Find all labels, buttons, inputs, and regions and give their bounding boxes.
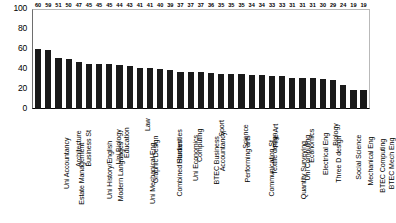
category-label-slot: Textile design (247, 110, 257, 223)
bar-value-label: 30 (320, 3, 326, 9)
category-label-slot: Social Science (328, 110, 338, 223)
bar-item[interactable]: 47 (74, 9, 84, 109)
bar-value-label: 29 (330, 3, 336, 9)
bar-rect (157, 69, 163, 109)
bar-item[interactable]: 35 (226, 9, 236, 109)
bar-value-label: 51 (55, 3, 61, 9)
category-label-slot: Mechanical Eng (338, 110, 348, 223)
bar-rect (96, 64, 102, 109)
bar-value-label: 24 (340, 3, 346, 9)
y-axis-tick: 20 (18, 84, 27, 93)
bar-rect (289, 78, 295, 109)
bar-rect (45, 50, 51, 109)
bar-item[interactable]: 19 (359, 9, 369, 109)
bar-item[interactable]: 31 (308, 9, 318, 109)
bar-item[interactable]: 34 (247, 9, 257, 109)
bar-rect (106, 64, 112, 109)
bar-item[interactable]: 33 (267, 9, 277, 109)
bar-item[interactable]: 59 (43, 9, 53, 109)
bar-item[interactable]: 45 (94, 9, 104, 109)
y-axis-tick: 100 (13, 4, 27, 13)
bar-item[interactable]: 44 (114, 9, 124, 109)
category-label-slot: Science (226, 110, 236, 223)
bar-item[interactable]: 30 (318, 9, 328, 109)
category-label-slot: Electrical Eng (297, 110, 307, 223)
bar-item[interactable]: 37 (175, 9, 185, 109)
bar-item[interactable]: 31 (297, 9, 307, 109)
bar-item[interactable]: 50 (64, 9, 74, 109)
bar-value-label: 40 (157, 3, 163, 9)
bar-item[interactable]: 33 (277, 9, 287, 109)
bar-item[interactable]: 60 (33, 9, 43, 109)
bar-item[interactable]: 43 (125, 9, 135, 109)
bar-value-label: 35 (238, 3, 244, 9)
y-axis: 100806040200 (0, 8, 30, 110)
bar-rect (218, 74, 224, 109)
x-axis-category-label: BTEC Computing (380, 139, 387, 193)
bar-value-label: 35 (218, 3, 224, 9)
category-label-slot: Estate Management (43, 110, 53, 223)
bar-item[interactable]: 24 (338, 9, 348, 109)
bar-item[interactable]: 35 (216, 9, 226, 109)
bar-rect (360, 90, 366, 109)
bar-rect (228, 74, 234, 109)
category-label-slot: Combined Studies (145, 110, 155, 223)
bar-item[interactable]: 51 (53, 9, 63, 109)
bar-item[interactable]: 35 (236, 9, 246, 109)
category-label-slot: Uni Economics (165, 110, 175, 223)
category-labels-container: Uni AccountancyEstate ManagementArchitec… (33, 110, 369, 223)
category-label-slot: Quantity Surveying (267, 110, 277, 223)
bar-item[interactable]: 40 (155, 9, 165, 109)
bar-item[interactable]: 19 (348, 9, 358, 109)
bar-rect (269, 76, 275, 109)
bar-rect (238, 74, 244, 109)
bar-rect (208, 73, 214, 109)
bar-rect (249, 75, 255, 109)
bar-rect (310, 78, 316, 109)
bar-item[interactable]: 41 (135, 9, 145, 109)
bar-value-label: 31 (289, 3, 295, 9)
category-label-slot: Law (135, 110, 145, 223)
category-label-slot: Modern Languages (84, 110, 94, 223)
bar-item[interactable]: 34 (257, 9, 267, 109)
bar-rect (320, 79, 326, 109)
category-label-slot: BTEC Mech Eng (359, 110, 369, 223)
bar-rect (55, 58, 61, 109)
bar-rect (299, 78, 305, 109)
bar-item[interactable]: 29 (328, 9, 338, 109)
bar-item[interactable]: 41 (145, 9, 155, 109)
bar-rect (259, 75, 265, 109)
bar-rect (147, 68, 153, 109)
y-axis-tick: 80 (18, 24, 27, 33)
category-label-slot: Humanities (155, 110, 165, 223)
bar-item[interactable]: 31 (287, 9, 297, 109)
bar-rect (330, 80, 336, 109)
bar-value-label: 37 (198, 3, 204, 9)
bar-value-label: 33 (279, 3, 285, 9)
bar-item[interactable]: 45 (84, 9, 94, 109)
bar-value-label: 45 (96, 3, 102, 9)
category-label-slot: Biology (318, 110, 328, 223)
bar-value-label: 34 (249, 3, 255, 9)
bar-value-label: 45 (106, 3, 112, 9)
bar-value-label: 47 (76, 3, 82, 9)
bar-rect (127, 66, 133, 109)
bar-rect (198, 72, 204, 109)
bar-rect (188, 72, 194, 109)
bar-rect (167, 70, 173, 109)
category-label-slot: Architecture (53, 110, 63, 223)
bar-value-label: 31 (299, 3, 305, 9)
bar-value-label: 35 (228, 3, 234, 9)
bar-value-label: 59 (45, 3, 51, 9)
bar-item[interactable]: 37 (196, 9, 206, 109)
bar-rect (137, 68, 143, 109)
category-label-slot: BTEC Computing (348, 110, 358, 223)
category-label-slot: Accountancy (196, 110, 206, 223)
bar-item[interactable]: 36 (206, 9, 216, 109)
bar-value-label: 43 (127, 3, 133, 9)
bar-item[interactable]: 39 (165, 9, 175, 109)
bars-container: 6059515047454545444341414039373737363535… (33, 9, 369, 109)
bar-value-label: 45 (86, 3, 92, 9)
bar-item[interactable]: 37 (186, 9, 196, 109)
bar-item[interactable]: 45 (104, 9, 114, 109)
